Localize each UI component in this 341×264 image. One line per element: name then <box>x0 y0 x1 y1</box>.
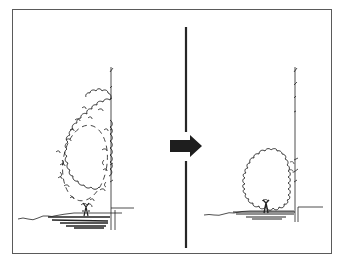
wall-right <box>294 67 323 222</box>
after-panel <box>204 67 323 222</box>
trunk-left <box>81 203 92 216</box>
ground-right <box>204 211 295 219</box>
before-panel <box>18 67 134 230</box>
ground-left <box>18 213 122 228</box>
overgrown-foliage <box>56 89 112 201</box>
right-arrow-icon <box>170 135 202 157</box>
pruning-guide-dashed <box>58 122 112 203</box>
wall-left <box>110 67 134 230</box>
pruned-foliage <box>243 149 291 211</box>
pruning-diagram <box>0 0 341 264</box>
